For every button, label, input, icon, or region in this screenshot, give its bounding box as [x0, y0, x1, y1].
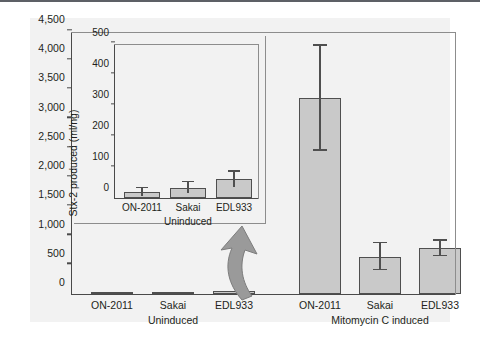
error-bar — [379, 243, 380, 270]
error-bar-cap — [433, 255, 447, 256]
y-tick-mark — [67, 146, 72, 147]
x-group-label: Uninduced — [148, 314, 198, 326]
x-category-label: EDL933 — [421, 299, 459, 311]
bar — [152, 292, 194, 294]
y-tick-mark — [67, 175, 72, 176]
x-category-label: ON-2011 — [91, 299, 133, 311]
y-tick-label: 500 — [47, 247, 72, 259]
y-tick-mark — [67, 117, 72, 118]
inset-error-bar — [233, 172, 234, 188]
inset-y-tick-mark — [111, 134, 116, 135]
error-bar-cap — [313, 149, 327, 150]
x-category-label: ON-2011 — [299, 299, 341, 311]
x-category-label: Sakai — [160, 299, 186, 311]
inset-error-bar-cap — [182, 181, 194, 182]
y-tick-label: 1,500 — [38, 188, 72, 200]
inset-y-tick-label: 400 — [92, 58, 115, 69]
y-tick-label: 3,500 — [38, 71, 72, 83]
inset-y-tick-label: 100 — [92, 151, 115, 162]
inset-x-group-label: Uninduced — [164, 216, 212, 227]
y-tick-label: 1,000 — [38, 218, 72, 230]
x-category-label: Sakai — [367, 299, 393, 311]
y-tick-label: 2,500 — [38, 130, 72, 142]
error-bar-cap — [373, 269, 387, 270]
y-tick-label: 4,500 — [38, 13, 72, 25]
inset-x-category-label: ON-2011 — [122, 202, 162, 213]
x-group-label: Mitomycin C induced — [331, 314, 428, 326]
y-tick-label: 4,000 — [38, 42, 72, 54]
inset-error-bar — [141, 188, 142, 195]
inset-y-tick-mark — [111, 41, 116, 42]
error-bar-cap — [313, 44, 327, 45]
inset-x-category-label: Sakai — [175, 202, 200, 213]
inset-error-bar-cap — [228, 170, 240, 171]
inset-y-tick-mark — [111, 72, 116, 73]
inset-y-tick-label: 300 — [92, 89, 115, 100]
inset-y-tick-mark — [111, 165, 116, 166]
y-tick-mark — [67, 29, 72, 30]
y-tick-label: 3,000 — [38, 101, 72, 113]
inset-y-tick-label: 0 — [103, 182, 115, 193]
bar — [91, 292, 133, 294]
figure-container: Stx-2 produced (ml/ng) 05001,0001,5002,0… — [0, 0, 480, 341]
y-tick-mark — [67, 204, 72, 205]
error-bar-cap — [433, 239, 447, 240]
top-rule-divider — [0, 0, 480, 2]
inset-x-category-label: EDL933 — [216, 202, 252, 213]
inset-error-bar — [187, 182, 188, 193]
y-tick-label: 0 — [59, 276, 72, 288]
y-tick-label: 2,000 — [38, 159, 72, 171]
error-bar-cap — [373, 242, 387, 243]
inset-y-tick-label: 200 — [92, 120, 115, 131]
inset-chart: 0100200300400500 ON-2011SakaiEDL933Unind… — [74, 36, 266, 228]
x-category-label: EDL933 — [215, 299, 253, 311]
error-bar — [319, 46, 320, 151]
inset-error-bar-cap — [136, 187, 148, 188]
y-tick-mark — [67, 87, 72, 88]
bar — [213, 291, 255, 295]
inset-y-tick-label: 500 — [92, 27, 115, 38]
inset-plot-area: 0100200300400500 ON-2011SakaiEDL933Unind… — [114, 44, 259, 199]
inset-y-tick-mark — [111, 103, 116, 104]
y-tick-mark — [67, 58, 72, 59]
y-tick-mark — [67, 263, 72, 264]
y-tick-mark — [67, 233, 72, 234]
